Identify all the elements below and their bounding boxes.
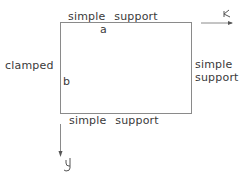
- x-axis-arrow: [201, 21, 233, 25]
- y-axis-icon: [64, 158, 70, 171]
- width-label: a: [100, 24, 107, 35]
- bottom-edge-label: simple support: [69, 115, 159, 126]
- plate-rectangle: [61, 23, 192, 114]
- diagram-canvas: [0, 0, 246, 173]
- top-edge-label: simple support: [68, 11, 158, 22]
- x-axis-icon: [224, 10, 230, 17]
- left-edge-label: clamped: [5, 60, 54, 71]
- right-edge-label-line1: simple: [195, 59, 233, 70]
- right-edge-label-line2: support: [195, 72, 239, 83]
- height-label: b: [63, 76, 70, 87]
- y-axis-arrow: [59, 124, 63, 157]
